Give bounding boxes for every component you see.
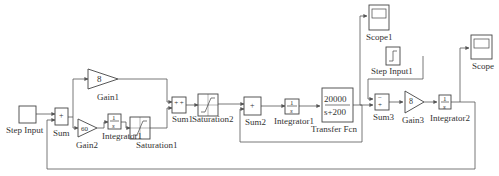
sum1-signs: + + xyxy=(174,100,184,106)
sum3-signs: − + xyxy=(378,95,386,109)
sum3-label: Sum3 xyxy=(373,112,394,122)
sum1-label: Sum1 xyxy=(172,114,193,124)
sum2-signs: + xyxy=(250,101,255,111)
integrator1b-den: s xyxy=(290,106,293,116)
step-input1-label: Step Input1 xyxy=(371,66,413,76)
simulink-diagram: + 8 60 1 s + + + 1 s 20000 s+200 − + 8 1… xyxy=(0,0,499,176)
diagram-blocks xyxy=(0,0,499,176)
transfer-fcn-num: 20000 xyxy=(324,94,347,104)
sum2-label: Sum2 xyxy=(245,117,266,127)
integrator2-label: Integrator2 xyxy=(430,113,470,123)
step-input-label: Step Input xyxy=(6,125,43,135)
transfer-fcn-label: Transfer Fcn xyxy=(311,124,357,134)
gain1-block[interactable] xyxy=(88,69,118,89)
scope-label: Scope xyxy=(472,61,494,71)
gain1-label: Gain1 xyxy=(97,92,119,102)
integrator1b-label: Integrator1 xyxy=(274,116,314,126)
gain2-value: 60 xyxy=(81,124,88,134)
sum-label: Sum xyxy=(53,128,70,138)
gain3-value: 8 xyxy=(409,97,413,107)
gain3-label: Gain3 xyxy=(402,115,424,125)
scope1-label: Scope1 xyxy=(366,32,393,42)
sum-signs: + xyxy=(59,111,64,121)
saturation2-label: Saturation2 xyxy=(192,114,234,124)
gain3-block[interactable] xyxy=(405,91,424,113)
gain2-label: Gain2 xyxy=(76,140,98,150)
saturation1-label: Saturation1 xyxy=(136,140,178,150)
integrator2-den: s xyxy=(443,102,446,112)
gain1-value: 8 xyxy=(97,74,102,84)
transfer-fcn-den: s+200 xyxy=(324,107,346,117)
step-input-block[interactable] xyxy=(19,106,36,123)
integrator1a-den: s xyxy=(112,121,115,131)
